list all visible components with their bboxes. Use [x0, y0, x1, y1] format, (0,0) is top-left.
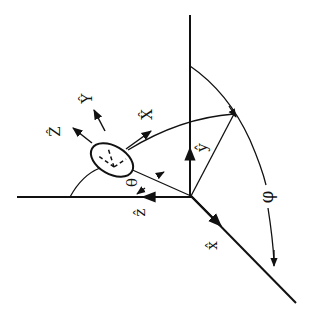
body-Y-label: Ŷ: [80, 94, 95, 104]
phi-arc-lower: [268, 208, 274, 262]
y-axis-label: ŷ: [195, 143, 210, 151]
theta-label: θ: [125, 178, 140, 187]
projection-line: [191, 114, 234, 196]
body-Z-arrow: [73, 128, 92, 143]
body-X-label: X̂: [140, 109, 155, 120]
theta-arc: [70, 168, 100, 197]
x-axis-label: x̂: [205, 241, 220, 249]
diagram-canvas: Ŷ X̂ Ẑ ŷ ẑ x̂ θ φ: [0, 0, 314, 320]
z-axis-label: ẑ: [133, 209, 148, 217]
x-axis-arrow: [191, 196, 221, 226]
body-X-arrow: [126, 131, 151, 149]
diagram-svg: [0, 0, 314, 320]
phi-label: φ: [258, 191, 276, 204]
body-Z-label: Ẑ: [48, 126, 63, 136]
theta-arrow-top: [157, 172, 164, 176]
theta-arrow-bottom: [137, 188, 145, 194]
body-Y-arrow: [94, 110, 105, 131]
